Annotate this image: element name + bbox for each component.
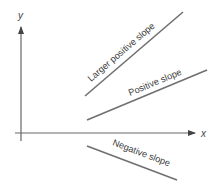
y-axis-label: y (17, 10, 24, 21)
slope-diagram: y x Larger positive slope Positive slope… (0, 0, 224, 189)
x-axis-label: x (200, 128, 207, 139)
positive-slope-label: Positive slope (127, 67, 183, 98)
negative-slope-label: Negative slope (111, 138, 171, 169)
larger-positive-slope-label: Larger positive slope (86, 21, 157, 84)
larger-positive-slope-line (85, 12, 183, 96)
positive-slope-line (87, 70, 207, 120)
